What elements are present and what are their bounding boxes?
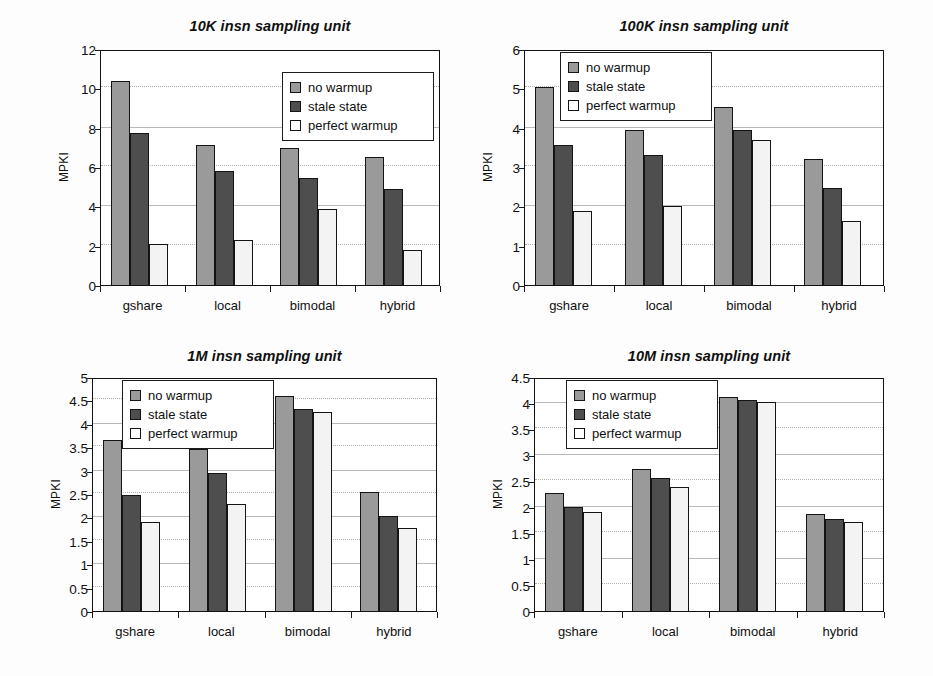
x-tick-mark	[100, 286, 101, 292]
legend-label: no warmup	[308, 81, 372, 94]
bar	[130, 133, 149, 285]
bar-group-inner	[280, 148, 337, 285]
legend-item: no warmup	[574, 386, 708, 405]
legend-swatch-icon	[568, 100, 579, 111]
y-tick-mark	[87, 542, 92, 543]
chart-title: 100K insn sampling unit	[524, 18, 884, 34]
x-tick-mark	[709, 612, 710, 618]
x-tick-mark	[704, 286, 705, 292]
chart-legend: no warmupstale stateperfect warmup	[122, 380, 274, 449]
x-tick-label: bimodal	[265, 624, 351, 639]
chart-title: 1M insn sampling unit	[92, 348, 437, 364]
legend-label: perfect warmup	[148, 427, 238, 440]
y-tick-label: 4	[462, 121, 525, 136]
legend-swatch-icon	[568, 62, 579, 73]
y-tick-mark	[529, 456, 534, 457]
bar	[122, 495, 141, 611]
y-tick-mark	[95, 89, 100, 90]
y-tick-label: 2.5	[22, 488, 93, 503]
y-tick-mark	[87, 589, 92, 590]
chart-title: 10K insn sampling unit	[100, 18, 440, 34]
y-tick-label: 0.5	[22, 581, 93, 596]
x-tick-mark	[355, 286, 356, 292]
x-axis-tick-labels: gsharelocalbimodalhybrid	[534, 624, 884, 639]
y-tick-mark	[87, 518, 92, 519]
bar	[141, 522, 160, 611]
y-tick-label: 3.5	[462, 423, 535, 438]
x-tick-mark	[351, 612, 352, 618]
x-tick-label: hybrid	[355, 298, 440, 313]
x-tick-mark	[797, 612, 798, 618]
bar	[573, 211, 592, 285]
legend-item: no warmup	[130, 386, 264, 405]
bar	[103, 440, 122, 611]
x-tick-mark	[185, 286, 186, 292]
legend-item: no warmup	[568, 58, 702, 77]
y-tick-label: 2	[462, 200, 525, 215]
x-tick-mark	[884, 286, 885, 292]
y-tick-label: 2	[462, 501, 535, 516]
y-tick-mark	[529, 508, 534, 509]
chart-legend: no warmupstale stateperfect warmup	[566, 380, 718, 449]
legend-swatch-icon	[130, 409, 141, 420]
chart-panel-2: 1M insn sampling unitMPKI00.511.522.533.…	[22, 348, 462, 666]
y-tick-label: 3	[462, 449, 535, 464]
x-tick-mark	[614, 286, 615, 292]
x-tick-label: local	[185, 298, 270, 313]
bar	[719, 397, 738, 611]
x-tick-mark	[794, 286, 795, 292]
bar	[738, 400, 757, 611]
y-tick-label: 0	[462, 605, 535, 620]
legend-swatch-icon	[290, 82, 301, 93]
bar	[670, 487, 689, 611]
bar	[625, 130, 644, 285]
x-tick-mark	[524, 286, 525, 292]
bar	[196, 145, 215, 285]
chart-title: 10M insn sampling unit	[534, 348, 884, 364]
bar	[280, 148, 299, 285]
x-axis-tick-labels: gsharelocalbimodalhybrid	[92, 624, 437, 639]
bar	[365, 157, 384, 285]
bar-group-inner	[804, 159, 861, 285]
bar-group	[265, 379, 351, 611]
bar	[208, 473, 227, 611]
legend-label: perfect warmup	[592, 427, 682, 440]
y-tick-mark	[87, 472, 92, 473]
bar	[842, 221, 861, 285]
y-tick-mark	[95, 129, 100, 130]
x-tick-mark	[534, 612, 535, 618]
legend-swatch-icon	[130, 428, 141, 439]
bar	[733, 130, 752, 285]
y-tick-label: 3	[462, 161, 525, 176]
bar	[554, 145, 573, 285]
x-tick-label: bimodal	[704, 298, 794, 313]
x-tick-mark	[178, 612, 179, 618]
x-tick-mark	[437, 612, 438, 618]
figure-four-panel-bar-charts: 10K insn sampling unitMPKI024681012gshar…	[0, 0, 933, 676]
bar	[757, 402, 776, 611]
y-tick-label: 0.5	[462, 579, 535, 594]
bar	[149, 244, 168, 285]
bar-group	[101, 51, 186, 285]
y-tick-mark	[87, 565, 92, 566]
bar-group-inner	[714, 107, 771, 285]
bar	[806, 514, 825, 611]
x-tick-mark	[92, 612, 93, 618]
bar	[111, 81, 130, 285]
y-tick-label: 1	[22, 558, 93, 573]
x-tick-label: hybrid	[797, 624, 885, 639]
y-tick-label: 0	[22, 605, 93, 620]
legend-item: stale state	[574, 405, 708, 424]
bar-group-inner	[189, 449, 246, 611]
x-axis-tick-labels: gsharelocalbimodalhybrid	[100, 298, 440, 313]
x-tick-label: local	[178, 624, 264, 639]
x-tick-label: hybrid	[794, 298, 884, 313]
x-tick-label: local	[622, 624, 710, 639]
y-tick-mark	[519, 89, 524, 90]
x-tick-mark	[622, 612, 623, 618]
legend-item: stale state	[290, 97, 424, 116]
bar	[823, 188, 842, 285]
bar	[379, 516, 398, 611]
x-tick-mark	[265, 612, 266, 618]
x-tick-label: gshare	[100, 298, 185, 313]
